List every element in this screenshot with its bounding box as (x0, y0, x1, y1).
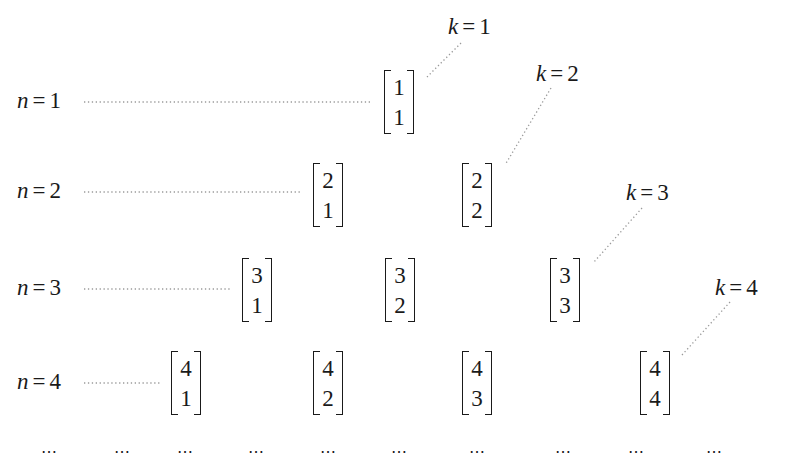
vector-top: 3 (550, 264, 580, 287)
col-label-value: 2 (567, 61, 579, 86)
vector-top: 3 (242, 264, 272, 287)
col-guide-k3 (594, 208, 642, 262)
vector-top: 1 (384, 76, 414, 99)
continuation-ellipsis: ⋯ (114, 444, 132, 460)
continuation-ellipsis: ⋯ (320, 444, 338, 460)
col-label-k4: k=4 (715, 276, 758, 299)
col-guide-k1 (426, 43, 461, 78)
vector-top: 2 (313, 169, 343, 192)
row-label-eq: = (33, 275, 46, 300)
vector-bottom: 2 (313, 387, 343, 410)
col-label-value: 4 (746, 275, 758, 300)
vector-top: 4 (462, 357, 492, 380)
triangular-vector-diagram: n=1 n=2 n=3 n=4 k=1 k=2 k=3 k=4 1 1 2 1 … (0, 0, 792, 472)
vector-n2-k1: 2 1 (313, 163, 343, 227)
continuation-ellipsis: ⋯ (469, 444, 487, 460)
row-label-eq: = (33, 178, 46, 203)
row-label-eq: = (33, 88, 46, 113)
vector-n2-k2: 2 2 (462, 163, 492, 227)
vector-n1-k1: 1 1 (384, 70, 414, 134)
vector-bottom: 2 (462, 199, 492, 222)
row-label-n3: n=3 (17, 276, 61, 299)
vector-n3-k2: 3 2 (385, 258, 415, 322)
col-label-eq: = (729, 275, 742, 300)
continuation-ellipsis: ⋯ (555, 444, 573, 460)
col-label-value: 3 (657, 180, 669, 205)
vector-bottom: 4 (640, 387, 670, 410)
vector-bottom: 1 (313, 199, 343, 222)
row-label-value: 4 (49, 369, 61, 394)
row-label-value: 1 (49, 88, 61, 113)
col-label-value: 1 (479, 14, 491, 39)
row-label-eq: = (33, 369, 46, 394)
col-label-k1: k=1 (448, 15, 491, 38)
continuation-ellipsis: ⋯ (177, 444, 195, 460)
vector-top: 4 (313, 357, 343, 380)
continuation-ellipsis: ⋯ (41, 444, 59, 460)
col-label-var: k (536, 61, 546, 86)
col-guide-k2 (505, 88, 551, 165)
col-label-eq: = (550, 61, 563, 86)
vector-n3-k3: 3 3 (550, 258, 580, 322)
vector-top: 4 (640, 357, 670, 380)
row-label-var: n (17, 369, 29, 394)
vector-top: 4 (171, 357, 201, 380)
col-label-k3: k=3 (626, 181, 669, 204)
vector-top: 3 (385, 264, 415, 287)
col-guide-k4 (682, 302, 730, 355)
row-label-n1: n=1 (17, 89, 61, 112)
vector-n4-k4: 4 4 (640, 351, 670, 415)
continuation-ellipsis: ⋯ (628, 444, 646, 460)
vector-bottom: 1 (242, 294, 272, 317)
row-label-var: n (17, 178, 29, 203)
vector-bottom: 2 (385, 294, 415, 317)
vector-n3-k1: 3 1 (242, 258, 272, 322)
col-label-var: k (715, 275, 725, 300)
vector-bottom: 3 (550, 294, 580, 317)
col-label-k2: k=2 (536, 62, 579, 85)
vector-bottom: 3 (462, 387, 492, 410)
row-label-var: n (17, 275, 29, 300)
continuation-ellipsis: ⋯ (706, 444, 724, 460)
vector-bottom: 1 (171, 387, 201, 410)
col-label-eq: = (462, 14, 475, 39)
row-label-n2: n=2 (17, 179, 61, 202)
vector-top: 2 (462, 169, 492, 192)
row-label-n4: n=4 (17, 370, 61, 393)
row-label-var: n (17, 88, 29, 113)
col-label-var: k (626, 180, 636, 205)
continuation-ellipsis: ⋯ (248, 444, 266, 460)
row-label-value: 3 (49, 275, 61, 300)
vector-n4-k1: 4 1 (171, 351, 201, 415)
continuation-ellipsis: ⋯ (391, 444, 409, 460)
vector-bottom: 1 (384, 106, 414, 129)
col-label-var: k (448, 14, 458, 39)
col-label-eq: = (640, 180, 653, 205)
vector-n4-k2: 4 2 (313, 351, 343, 415)
vector-n4-k3: 4 3 (462, 351, 492, 415)
row-label-value: 2 (49, 178, 61, 203)
